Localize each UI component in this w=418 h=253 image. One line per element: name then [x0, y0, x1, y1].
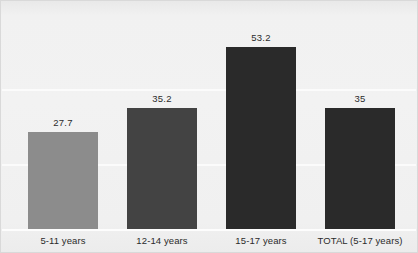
bar-group-5-11-years[interactable]: 27.7 5-11 years	[28, 132, 98, 229]
bar-category-label: 5-11 years	[40, 235, 85, 246]
bar-category-label: 15-17 years	[235, 235, 286, 246]
bars-layer: 27.7 5-11 years 35.2 12-14 years 53.2 15…	[1, 1, 418, 253]
bar-group-12-14-years[interactable]: 35.2 12-14 years	[127, 108, 197, 229]
bar-value-label: 35	[355, 93, 366, 104]
bar-chart: 27.7 5-11 years 35.2 12-14 years 53.2 15…	[0, 0, 418, 253]
bar-rect[interactable]	[226, 47, 296, 229]
bar-value-label: 27.7	[53, 117, 72, 128]
bar-value-label: 35.2	[152, 93, 171, 104]
bar-group-15-17-years[interactable]: 53.2 15-17 years	[226, 47, 296, 229]
bar-value-label: 53.2	[251, 32, 270, 43]
bar-rect[interactable]	[325, 108, 395, 229]
bar-rect[interactable]	[127, 108, 197, 229]
bar-group-total-5-17-years[interactable]: 35 TOTAL (5-17 years)	[325, 108, 395, 229]
bar-category-label: 12-14 years	[136, 235, 187, 246]
bar-category-label: TOTAL (5-17 years)	[317, 235, 402, 246]
bar-rect[interactable]	[28, 132, 98, 229]
